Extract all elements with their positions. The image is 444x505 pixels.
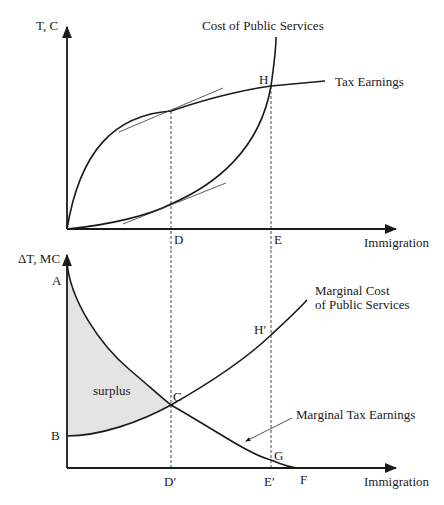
marginal-tax-pointer-arrow xyxy=(246,418,292,441)
marginal-cost-label-line1: Marginal Cost xyxy=(315,283,390,298)
point-E: E xyxy=(274,232,282,247)
point-C: C xyxy=(173,389,182,404)
bottom-x-axis-label: Immigration xyxy=(364,474,429,489)
tax-earnings-curve xyxy=(67,81,325,229)
top-y-axis-label: T, C xyxy=(36,18,58,33)
tax-curve-label: Tax Earnings xyxy=(335,74,404,89)
surplus-label: surplus xyxy=(93,383,131,398)
point-G: G xyxy=(274,448,283,463)
tangent-cost-at-D xyxy=(123,183,226,224)
bottom-panel: ΔT, MC Immigration Marginal Cost of Publ… xyxy=(18,250,429,489)
cost-curve-label: Cost of Public Services xyxy=(202,18,324,33)
point-H: H xyxy=(259,72,268,87)
point-D-prime: Dʹ xyxy=(164,474,176,489)
point-D: D xyxy=(174,232,183,247)
top-x-axis-label: Immigration xyxy=(364,235,429,250)
point-E-prime: Eʹ xyxy=(264,474,275,489)
marginal-cost-label-line2: of Public Services xyxy=(315,297,410,312)
top-panel: T, C Immigration Cost of Public Services… xyxy=(36,18,429,250)
point-F: F xyxy=(300,472,307,487)
point-B: B xyxy=(51,428,60,443)
point-A: A xyxy=(52,273,62,288)
immigration-fiscal-diagram: T, C Immigration Cost of Public Services… xyxy=(0,0,444,505)
surplus-region xyxy=(67,262,171,436)
tangent-tax-at-D xyxy=(119,88,223,132)
cost-public-services-curve xyxy=(67,37,276,229)
point-H-prime: Hʹ xyxy=(254,322,266,337)
marginal-tax-label: Marginal Tax Earnings xyxy=(296,407,415,422)
bottom-y-axis-label: ΔT, MC xyxy=(18,251,60,266)
